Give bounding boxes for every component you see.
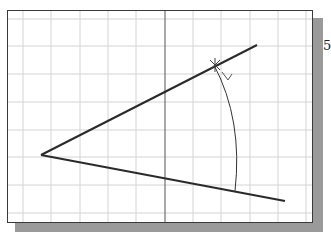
angle-cursor-icon — [222, 72, 232, 80]
angle-arc[interactable] — [214, 65, 237, 191]
step-label: 5 — [323, 38, 331, 53]
lower-line[interactable] — [41, 155, 285, 201]
grid — [8, 11, 312, 222]
upper-line[interactable] — [41, 45, 257, 155]
